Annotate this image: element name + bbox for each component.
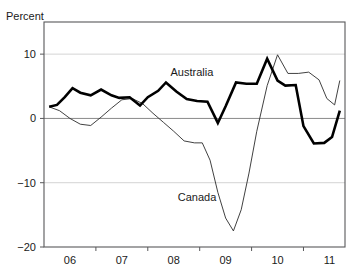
y-tick-label-0: 0 <box>30 112 36 124</box>
x-tick-label-09: 09 <box>220 254 232 266</box>
y-axis-tick-labels: 100−10−20 <box>17 48 36 253</box>
economic-growth-line-chart: Percent 100−10−20 060708091011 Australia… <box>0 0 357 276</box>
y-axis-unit-label: Percent <box>6 10 44 22</box>
chart-container: Percent 100−10−20 060708091011 Australia… <box>0 0 357 276</box>
y-axis-tickmarks <box>40 54 44 247</box>
x-axis-tick-labels: 060708091011 <box>64 254 335 266</box>
x-tick-label-07: 07 <box>116 254 128 266</box>
series-label-canada: Canada <box>178 191 217 203</box>
series-label-australia: Australia <box>171 66 215 78</box>
x-tick-label-11: 11 <box>324 254 335 266</box>
x-tick-label-08: 08 <box>168 254 180 266</box>
plot-frame <box>44 22 345 247</box>
y-tick-label-neg10: −10 <box>17 177 36 189</box>
data-series-group <box>49 55 340 231</box>
x-tick-label-06: 06 <box>64 254 76 266</box>
y-tick-label-10: 10 <box>24 48 36 60</box>
x-tick-label-10: 10 <box>271 254 283 266</box>
x-axis-tickmarks <box>96 247 304 251</box>
series-line-canada <box>49 55 340 231</box>
y-tick-label-neg20: −20 <box>17 241 36 253</box>
